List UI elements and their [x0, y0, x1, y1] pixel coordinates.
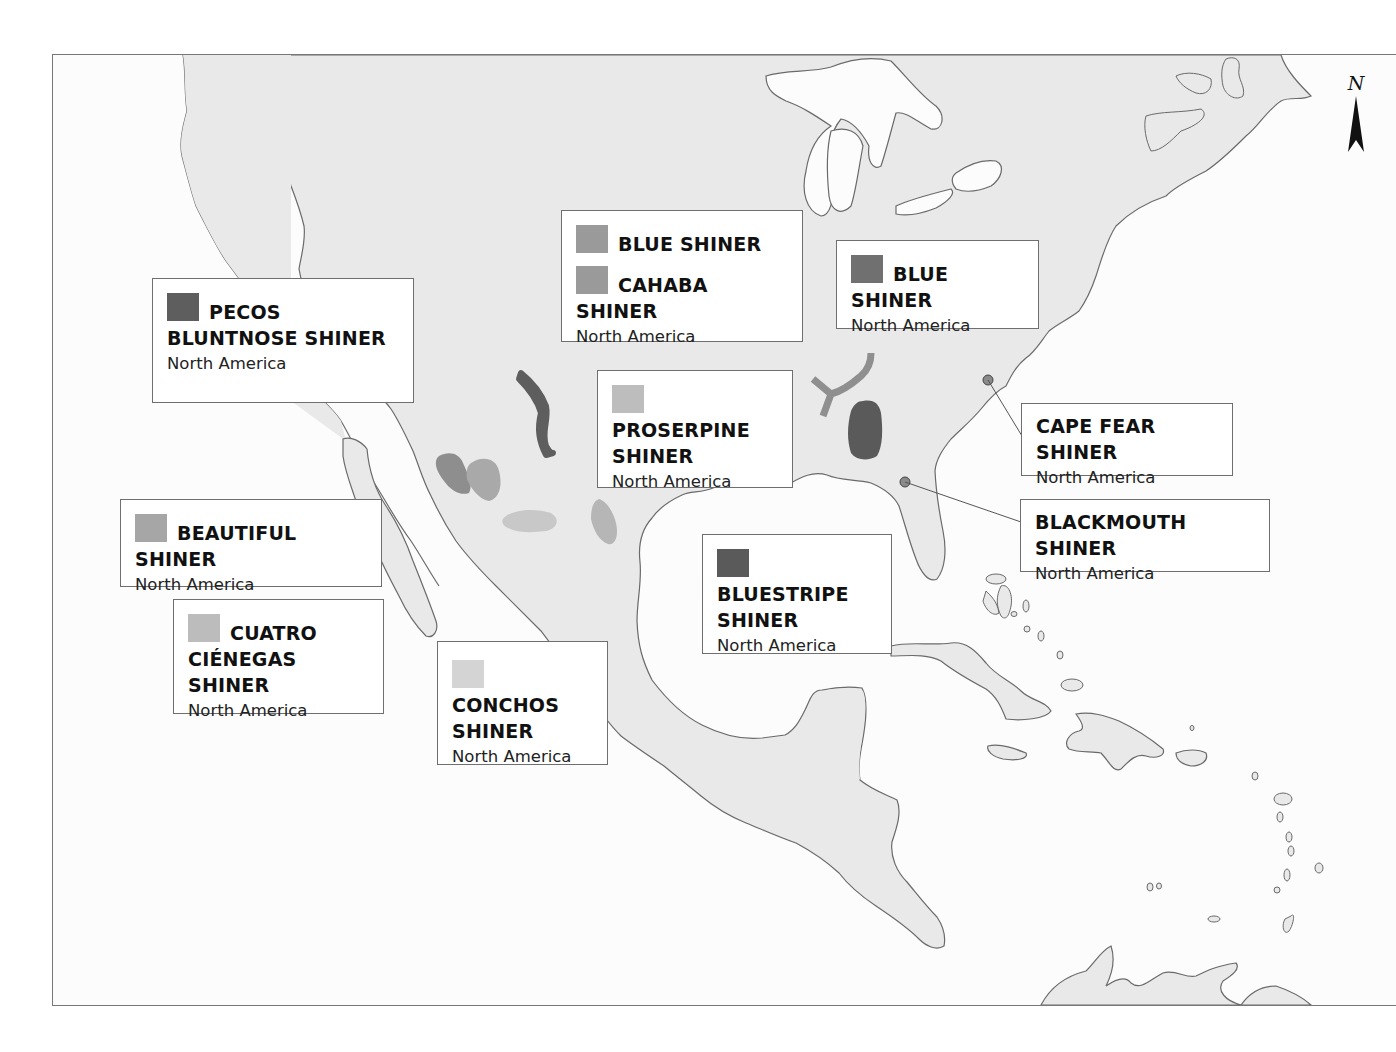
label-bluestripe-shiner: BLUESTRIPE SHINER North America — [702, 534, 892, 654]
species-name: CONCHOS SHINER — [452, 694, 559, 742]
region-text: North America — [576, 325, 788, 349]
label-conchos-shiner: CONCHOS SHINER North America — [437, 641, 608, 765]
north-arrow-icon — [1346, 94, 1366, 154]
swatch-blue-shiner — [576, 225, 608, 253]
label-proserpine-shiner: PROSERPINE SHINER North America — [597, 370, 793, 488]
swatch-pecos — [167, 293, 199, 321]
species-name: BLUESTRIPE SHINER — [717, 583, 849, 631]
region-text: North America — [1035, 562, 1255, 586]
swatch-cuatro — [188, 614, 220, 642]
label-beautiful-shiner: BEAUTIFUL SHINER North America — [120, 499, 382, 587]
species-name: PECOS BLUNTNOSE SHINER — [167, 301, 386, 349]
island-puerto-rico — [1176, 750, 1207, 766]
north-arrow: N — [1338, 72, 1374, 158]
north-letter: N — [1338, 72, 1374, 94]
region-text: North America — [612, 470, 778, 494]
island-hispaniola — [1067, 713, 1164, 770]
species-name: BLUE SHINER — [618, 233, 761, 255]
swatch-beautiful — [135, 514, 167, 542]
swatch-conchos — [452, 660, 484, 688]
label-blue-shiner-east: BLUE SHINER North America — [836, 240, 1039, 329]
label-pecos-bluntnose-shiner: PECOS BLUNTNOSE SHINER North America — [152, 278, 414, 403]
species-name: PROSERPINE SHINER — [612, 419, 750, 467]
island-cuba — [891, 643, 1051, 720]
swatch-cahaba-shiner — [576, 266, 608, 294]
region-text: North America — [135, 573, 367, 597]
region-text: North America — [167, 352, 399, 376]
range-blue-east — [848, 401, 882, 460]
swatch-bluestripe — [717, 549, 749, 577]
region-text: North America — [1036, 466, 1218, 490]
region-text: North America — [851, 314, 1024, 338]
island-jamaica — [988, 745, 1027, 760]
region-text: North America — [452, 745, 593, 769]
label-blue-cahaba-shiner: BLUE SHINER CAHABA SHINER North America — [561, 210, 803, 342]
swatch-proserpine — [612, 385, 644, 413]
swatch-blue-shiner — [851, 255, 883, 283]
label-cuatro-cienegas-shiner: CUATRO CIÉNEGAS SHINER North America — [173, 599, 384, 714]
species-name: CAPE FEAR SHINER — [1036, 415, 1155, 463]
label-cape-fear-shiner: CAPE FEAR SHINER North America — [1021, 403, 1233, 476]
species-name: BLACKMOUTH SHINER — [1035, 511, 1186, 559]
region-text: North America — [188, 699, 369, 723]
region-text: North America — [717, 634, 877, 658]
label-blackmouth-shiner: BLACKMOUTH SHINER North America — [1020, 499, 1270, 572]
